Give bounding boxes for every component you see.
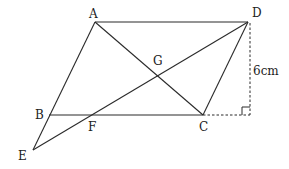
label-D: D	[252, 6, 262, 20]
label-C: C	[199, 120, 208, 134]
label-E: E	[18, 149, 27, 163]
label-F: F	[88, 120, 96, 134]
label-G: G	[153, 54, 163, 68]
label-B: B	[35, 108, 44, 122]
geometry-diagram: A D G B F C E 6cm	[0, 0, 289, 169]
measurement-label: 6cm	[253, 64, 279, 78]
segment-AC	[95, 22, 203, 115]
segment-DE	[33, 22, 248, 150]
diagram-svg: A D G B F C E 6cm	[0, 0, 289, 169]
right-angle-marker	[242, 107, 250, 115]
label-A: A	[88, 7, 98, 21]
segment-AE	[33, 22, 95, 150]
